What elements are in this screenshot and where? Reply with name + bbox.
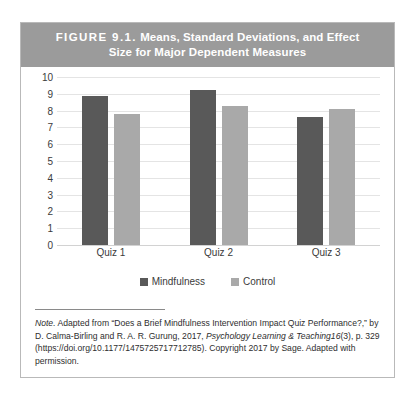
legend-label-mindfulness: Mindfulness <box>152 276 205 287</box>
y-axis-tick-label: 3 <box>47 189 53 200</box>
y-axis-tick-label: 4 <box>47 172 53 183</box>
y-axis-tick-label: 2 <box>47 206 53 217</box>
plot-frame: 012345678910 Quiz 1Quiz 2Quiz 3 <box>31 77 380 272</box>
note-divider <box>35 309 165 310</box>
y-axis-tick-label: 6 <box>47 139 53 150</box>
bar-control-quiz-2 <box>222 106 248 245</box>
figure-banner: FIGURE 9.1. Means, Standard Deviations, … <box>21 23 394 67</box>
x-axis-tick-label: Quiz 1 <box>57 247 165 258</box>
figure-number-label: FIGURE 9.1. <box>56 31 137 43</box>
legend-swatch-mindfulness <box>140 278 148 286</box>
note-journal: Psychology Learning & Teaching <box>206 331 331 341</box>
bar-group <box>165 77 273 245</box>
y-axis-tick-label: 0 <box>47 240 53 251</box>
legend-swatch-control <box>231 278 239 286</box>
chart-legend: MindfulnessControl <box>21 276 394 287</box>
note-text: Note. Adapted from “Does a Brief Mindful… <box>35 317 380 367</box>
y-axis-tick-label: 7 <box>47 122 53 133</box>
figure-note: Note. Adapted from “Does a Brief Mindful… <box>21 309 394 377</box>
y-axis-tick-label: 1 <box>47 223 53 234</box>
chart-region: 012345678910 Quiz 1Quiz 2Quiz 3 <box>21 67 394 272</box>
bar-mindfulness-quiz-2 <box>190 90 216 245</box>
y-axis-tick-label: 10 <box>42 72 53 83</box>
bar-mindfulness-quiz-1 <box>82 96 108 245</box>
figure-title-text-1: Means, Standard Deviations, and Effect <box>140 31 359 43</box>
axis-baseline <box>57 245 380 246</box>
x-axis-tick-label: Quiz 3 <box>272 247 380 258</box>
bar-control-quiz-3 <box>329 109 355 245</box>
bar-mindfulness-quiz-3 <box>297 117 323 245</box>
x-axis-tick-label: Quiz 2 <box>165 247 273 258</box>
figure-title-line-1: FIGURE 9.1. Means, Standard Deviations, … <box>56 30 360 45</box>
bar-control-quiz-1 <box>114 114 140 245</box>
legend-item-mindfulness: Mindfulness <box>140 276 205 287</box>
legend-item-control: Control <box>231 276 275 287</box>
bars-layer <box>57 77 380 245</box>
y-axis-tick-label: 9 <box>47 88 53 99</box>
bar-group <box>272 77 380 245</box>
y-axis-tick-label: 8 <box>47 105 53 116</box>
note-issue: (3) <box>340 331 351 341</box>
note-lead: Note. <box>35 318 56 328</box>
x-axis: Quiz 1Quiz 2Quiz 3 <box>57 247 380 258</box>
legend-label-control: Control <box>243 276 275 287</box>
figure-container: FIGURE 9.1. Means, Standard Deviations, … <box>20 22 395 378</box>
y-axis: 012345678910 <box>31 77 57 245</box>
y-axis-tick-label: 5 <box>47 156 53 167</box>
note-volume: 16 <box>331 331 341 341</box>
figure-title-line-2: Size for Major Dependent Measures <box>109 45 307 60</box>
bar-group <box>57 77 165 245</box>
